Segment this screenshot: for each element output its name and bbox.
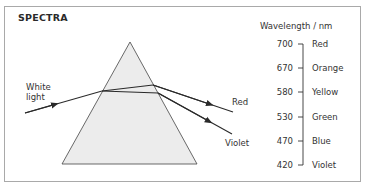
wavelength-scale <box>298 44 303 165</box>
wavelength-heading: Wavelength / nm <box>260 21 332 31</box>
color-name: Blue <box>312 136 331 146</box>
color-name: Violet <box>312 160 336 170</box>
color-name: Green <box>312 112 338 122</box>
white-light-label: White light <box>26 82 51 102</box>
violet-ray-label: Violet <box>225 138 249 148</box>
wavelength-value: 580 <box>265 87 293 97</box>
color-name: Red <box>312 39 328 49</box>
wavelength-value: 470 <box>265 136 293 146</box>
color-name: Orange <box>312 63 343 73</box>
wavelength-value: 420 <box>265 160 293 170</box>
wavelength-value: 700 <box>265 39 293 49</box>
color-name: Yellow <box>312 87 338 97</box>
red-ray-label: Red <box>232 97 248 107</box>
wavelength-value: 530 <box>265 112 293 122</box>
wavelength-value: 670 <box>265 63 293 73</box>
